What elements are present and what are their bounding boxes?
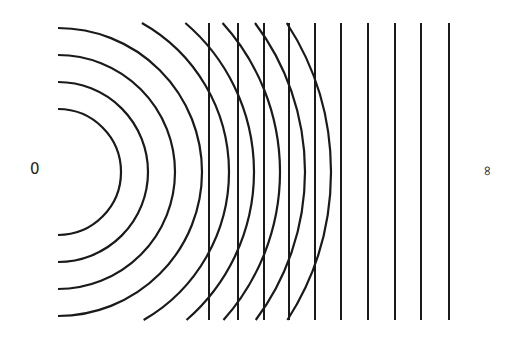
plane-wavefronts <box>209 23 449 320</box>
wavefront-arc <box>185 23 254 320</box>
wavefront-arc <box>287 23 331 320</box>
wavefront-arc <box>142 23 229 320</box>
source-origin-label: 0 <box>30 162 40 177</box>
spherical-wavefronts <box>58 23 331 320</box>
wavefront-arc <box>58 82 148 262</box>
wavefront-arc <box>58 55 175 289</box>
wavefront-svg <box>0 0 519 340</box>
wavefront-arc <box>58 28 202 316</box>
infinity-label: ∞ <box>481 165 495 177</box>
wavefront-arc <box>58 109 121 235</box>
wavefront-arc <box>223 23 280 320</box>
